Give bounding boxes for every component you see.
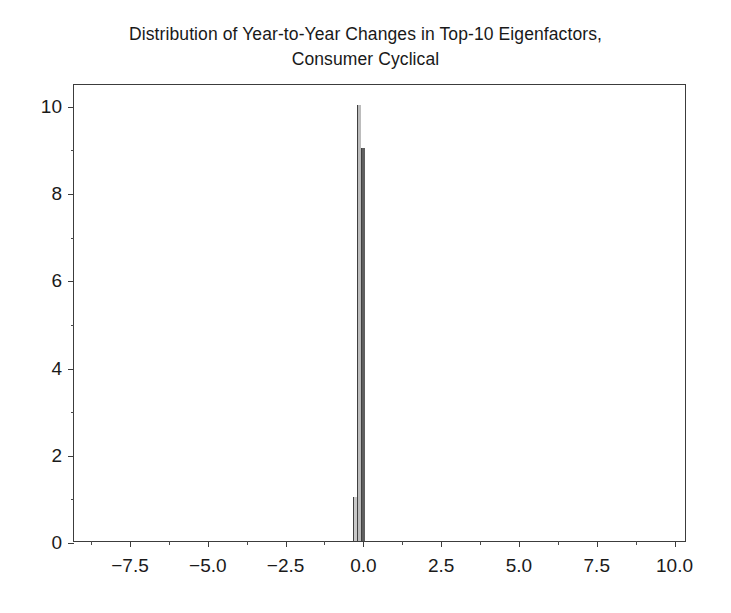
y-axis-minor-tick [71,325,75,326]
x-axis-minor-tick [247,541,248,545]
chart-figure: Distribution of Year-to-Year Changes in … [0,0,731,613]
x-axis-tick-label: 5.0 [506,555,532,577]
y-axis-tick-label: 6 [51,270,62,292]
y-axis-tick-label: 2 [51,445,62,467]
x-axis-tick [519,541,520,547]
x-axis-minor-tick [91,541,92,545]
x-axis-tick [286,541,287,547]
y-axis-minor-tick [71,238,75,239]
x-axis-tick [441,541,442,547]
x-axis-minor-tick [169,541,170,545]
plot-area [74,85,685,541]
x-axis-minor-tick [480,541,481,545]
y-axis-tick [68,456,74,457]
x-axis-minor-tick [324,541,325,545]
x-axis-minor-tick [636,541,637,545]
y-axis-tick-label: 0 [51,532,62,554]
x-axis-minor-tick [402,541,403,545]
x-axis-tick [363,541,364,547]
x-axis-tick [675,541,676,547]
y-axis-minor-tick [71,150,75,151]
y-axis-tick-label: 10 [41,96,62,118]
y-axis-tick [68,107,74,108]
chart-title: Distribution of Year-to-Year Changes in … [0,22,731,72]
x-axis-tick [130,541,131,547]
x-axis-tick-label: −5.0 [189,555,227,577]
x-axis-tick-label: 7.5 [584,555,610,577]
y-axis-tick [68,543,74,544]
y-axis-tick-label: 8 [51,183,62,205]
x-axis-tick-label: −2.5 [267,555,305,577]
x-axis-tick [208,541,209,547]
y-axis-tick [68,281,74,282]
y-axis-tick [68,194,74,195]
x-axis-tick [597,541,598,547]
y-axis-minor-tick [71,412,75,413]
x-axis-minor-tick [558,541,559,545]
y-axis-tick-label: 4 [51,358,62,380]
x-axis-tick-label: −7.5 [111,555,149,577]
y-axis-tick [68,369,74,370]
x-axis-tick-label: 2.5 [428,555,454,577]
plot-frame: 0246810 −7.5−5.0−2.50.02.55.07.510.0 [73,84,686,542]
y-axis-minor-tick [71,499,75,500]
histogram-bar [361,148,365,541]
x-axis-tick-label: 0.0 [350,555,376,577]
x-axis-tick-label: 10.0 [656,555,693,577]
